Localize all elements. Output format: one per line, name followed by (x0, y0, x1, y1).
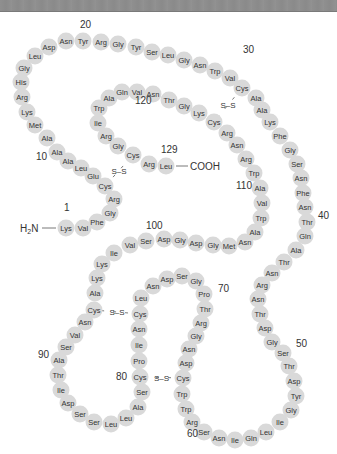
residue-41: Gln (297, 228, 314, 245)
residue-label: Asn (295, 174, 308, 183)
residue-label: Cys (134, 310, 147, 319)
residue-label: Ser (291, 160, 303, 169)
residue-label: Gly (104, 209, 116, 218)
residue-label: Ser (140, 237, 152, 246)
residue-label: Lys (264, 118, 276, 127)
disulfide-bond-label: S–S (220, 101, 235, 110)
residue-88: Ile (53, 382, 70, 399)
residue-26: Gly (176, 52, 193, 69)
residue-label: Arg (100, 132, 112, 141)
residue-label: Ser (136, 388, 148, 397)
position-label-80: 80 (116, 371, 128, 382)
residue-label: Val (70, 331, 81, 340)
residue-label: Gly (18, 64, 30, 73)
residue-label: Leu (135, 294, 148, 303)
residue-label: Asn (266, 269, 279, 278)
residue-label: Gln (245, 434, 257, 443)
residue-label: Asp (259, 324, 272, 333)
residue-label: Cys (208, 118, 221, 127)
residue-label: Cys (134, 373, 147, 382)
residue-label: Ser (277, 349, 289, 358)
residue-89: Thr (50, 367, 67, 384)
residue-label: Ile (57, 386, 65, 395)
residue-label: Asn (60, 37, 73, 46)
residue-label: Leu (75, 164, 88, 173)
residue-label: Asn (147, 282, 160, 291)
residue-127: Cys (125, 147, 142, 164)
residue-label: Leu (105, 420, 118, 429)
residue-1: Lys (58, 220, 75, 237)
residue-label: Phe (273, 132, 286, 141)
residue-94: Cys (86, 302, 103, 319)
residue-label: Gly (178, 102, 190, 111)
residue-label: Leu (29, 52, 42, 61)
residue-label: Tyr (131, 43, 142, 52)
disulfide-bond-label: S–S (111, 167, 126, 176)
residue-83: Leu (118, 410, 135, 427)
residue-label: Ala (133, 403, 145, 412)
residue-51: Thr (281, 358, 298, 375)
residue-label: Val (125, 241, 136, 250)
residue-label: Arg (16, 93, 28, 102)
residue-18: Asp (41, 39, 58, 56)
residue-label: Asn (79, 318, 92, 327)
residue-label: Gln (299, 232, 311, 241)
residue-label: Lys (193, 109, 205, 118)
residue-label: Asn (231, 141, 244, 150)
residue-17: Leu (27, 48, 44, 65)
lysozyme-sequence-diagram: S–SS–SS–SS–S LysValPheGlyArgCysGluLeuAla… (0, 0, 337, 454)
residue-102: Gly (172, 232, 189, 249)
residue-label: Arg (195, 319, 207, 328)
residue-label: Ile (135, 341, 143, 350)
position-label-70: 70 (218, 283, 230, 294)
residue-label: Ile (231, 436, 239, 445)
residue-label: Ser (88, 418, 100, 427)
residue-label: Asp (158, 235, 171, 244)
residue-34: Phe (272, 128, 289, 145)
residue-label: Thr (199, 305, 211, 314)
residue-label: Trp (249, 169, 260, 178)
residue-label: Arg (95, 38, 107, 47)
residue-30: Cys (234, 80, 251, 97)
residue-27: Asn (192, 57, 209, 74)
residue-label: Ser (176, 272, 188, 281)
residue-label: Ala (90, 289, 102, 298)
residue-label: Asp (43, 43, 56, 52)
residue-label: Ala (251, 94, 263, 103)
residue-21: Arg (93, 34, 110, 51)
residue-98: Ile (106, 245, 123, 262)
residue-label: Arg (143, 160, 155, 169)
residue-label: Lys (96, 260, 108, 269)
position-label-30: 30 (243, 44, 255, 55)
residue-115: Cys (206, 114, 223, 131)
residue-label: Arg (240, 155, 252, 164)
residue-19: Asn (58, 33, 75, 50)
position-label-20: 20 (80, 19, 92, 30)
residue-80: Cys (132, 369, 149, 386)
residue-label: Met (29, 121, 42, 130)
residue-chain: LysValPheGlyArgCysGluLeuAlaAlaAlaMetLysA… (13, 33, 316, 449)
residue-label: Thr (254, 310, 266, 319)
residue-15: His (13, 74, 30, 91)
disulfide-bond-label: S–S (109, 308, 124, 317)
residue-42: Ala (288, 242, 305, 259)
residue-109: Val (254, 195, 271, 212)
residue-label: Cys (177, 374, 190, 383)
residue-label: Trp (210, 67, 221, 76)
residue-46: Asn (250, 291, 267, 308)
position-label-1: 1 (64, 202, 70, 213)
residue-label: Tyr (291, 392, 302, 401)
residue-label: Asp (288, 377, 301, 386)
residue-label: Val (78, 224, 89, 233)
residue-label: Asn (183, 345, 196, 354)
residue-label: Arg (221, 129, 233, 138)
residue-25: Leu (160, 47, 177, 64)
residue-label: Leu (162, 51, 175, 60)
residue-69: Thr (197, 301, 214, 318)
residue-75: Leu (133, 290, 150, 307)
residue-14: Arg (14, 89, 31, 106)
position-label-10: 10 (36, 151, 48, 162)
residue-label: Ser (74, 410, 86, 419)
residue-95: Ala (87, 285, 104, 302)
residue-label: Gly (190, 332, 202, 341)
